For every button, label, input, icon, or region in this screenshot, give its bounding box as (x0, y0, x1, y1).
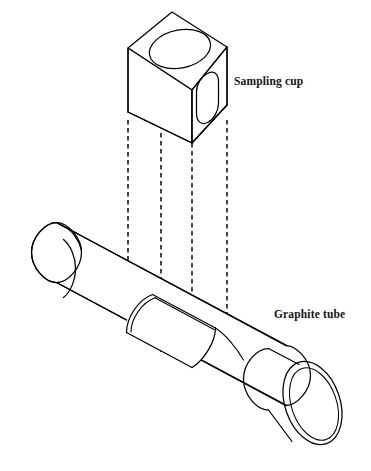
sampling-cup-group (128, 12, 227, 143)
graphite-tube-label: Graphite tube (274, 308, 345, 321)
figure-root: Sampling cup Graphite tube (0, 0, 371, 471)
schematic-diagram: Sampling cup Graphite tube (0, 0, 371, 471)
tube-right-sleeve-bottom (269, 410, 293, 442)
sampling-cup-label: Sampling cup (234, 75, 303, 88)
